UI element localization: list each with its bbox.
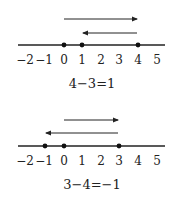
tick-label: 2 xyxy=(97,54,105,66)
tick-label: −2 xyxy=(16,54,34,66)
tick-label: −1 xyxy=(35,155,53,167)
tick-label: 1 xyxy=(78,155,86,167)
tick-label: 4 xyxy=(134,155,142,167)
tick-label: 3 xyxy=(115,54,123,66)
number-line-2 xyxy=(18,120,165,148)
point-4 xyxy=(136,43,141,48)
tick-label: 2 xyxy=(97,155,105,167)
tick-label: 3 xyxy=(115,155,123,167)
tick-label: −1 xyxy=(35,54,53,66)
point-neg1 xyxy=(43,144,48,149)
equation-1: 4−3=1 xyxy=(69,77,116,90)
point-1 xyxy=(80,43,85,48)
equation-2: 3−4=−1 xyxy=(63,178,121,191)
number-line-diagrams xyxy=(0,0,178,201)
tick-label: −2 xyxy=(16,155,34,167)
tick-label: 0 xyxy=(60,155,68,167)
tick-label: 5 xyxy=(153,155,161,167)
point-0 xyxy=(62,144,67,149)
tick-label: 4 xyxy=(134,54,142,66)
tick-label: 5 xyxy=(153,54,161,66)
point-0 xyxy=(62,43,67,48)
point-3 xyxy=(117,144,122,149)
tick-label: 1 xyxy=(78,54,86,66)
tick-label: 0 xyxy=(60,54,68,66)
number-line-1 xyxy=(18,19,165,47)
